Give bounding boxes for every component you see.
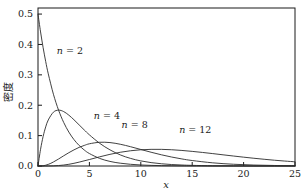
x-tick-label: 15	[186, 168, 198, 179]
y-axis-title: 密度	[2, 82, 14, 102]
x-tick-label: 10	[135, 168, 147, 179]
figure-background	[0, 0, 306, 193]
curve-label-n2: n = 2	[57, 45, 83, 56]
x-tick-label: 25	[289, 168, 301, 179]
curve-label-n8: n = 8	[122, 119, 148, 130]
curve-label-n4: n = 4	[94, 110, 120, 121]
y-tick-label: 0.1	[18, 130, 33, 141]
x-axis-title: x	[163, 179, 169, 190]
y-tick-label: 0.4	[18, 39, 33, 50]
y-tick-label: 0.0	[18, 160, 33, 171]
x-tick-label: 5	[86, 168, 92, 179]
chi-square-density-plot: 0.00.10.20.30.40.5 0510152025 n = 2n = 4…	[0, 0, 306, 193]
x-tick-label: 0	[35, 168, 41, 179]
chart-figure: 0.00.10.20.30.40.5 0510152025 n = 2n = 4…	[0, 0, 306, 193]
x-tick-label: 20	[238, 168, 250, 179]
y-tick-label: 0.2	[18, 100, 33, 111]
y-tick-label: 0.5	[18, 8, 33, 19]
curve-label-n12: n = 12	[179, 124, 211, 135]
y-tick-label: 0.3	[18, 69, 33, 80]
